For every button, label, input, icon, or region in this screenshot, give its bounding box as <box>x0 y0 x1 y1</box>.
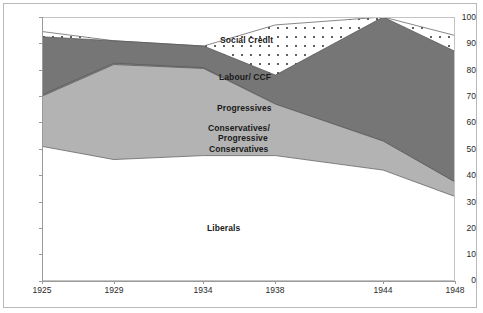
series-label-liberals: Liberals <box>207 223 240 234</box>
x-tick-1944: 1944 <box>361 286 405 295</box>
y-tick-20: 20 <box>452 224 476 232</box>
y-tick-100: 100 <box>452 13 476 21</box>
y-tick-60: 60 <box>452 118 476 126</box>
x-axis-line <box>42 281 456 282</box>
chart-frame: 100 90 80 70 60 50 40 30 20 10 0 <box>3 3 477 308</box>
x-tickmark-1929 <box>114 281 115 284</box>
x-tick-1938: 1938 <box>253 286 297 295</box>
x-tick-1948: 1948 <box>433 286 477 295</box>
y-tick-90: 90 <box>452 39 476 47</box>
x-tickmark-1948 <box>455 281 456 284</box>
series-label-social-credit: Social Credit <box>220 35 273 46</box>
series-label-conservatives-line1: Conservatives/ <box>208 123 270 134</box>
series-label-progressives: Progressives <box>217 103 272 114</box>
x-tickmark-1938 <box>275 281 276 284</box>
y-tick-70: 70 <box>452 92 476 100</box>
y-tick-10: 10 <box>452 250 476 258</box>
x-tick-1929: 1929 <box>92 286 136 295</box>
x-tickmark-1944 <box>383 281 384 284</box>
y-tick-40: 40 <box>452 171 476 179</box>
series-label-conservatives-line2: Progressive <box>218 133 268 144</box>
y-tick-50: 50 <box>452 145 476 153</box>
y-tick-30: 30 <box>452 198 476 206</box>
x-tickmark-1934 <box>203 281 204 284</box>
series-label-conservatives-line3: Conservatives <box>209 144 268 155</box>
x-tick-1925: 1925 <box>20 286 64 295</box>
x-tickmark-1925 <box>42 281 43 284</box>
x-tick-1934: 1934 <box>181 286 225 295</box>
y-tick-80: 80 <box>452 66 476 74</box>
series-label-labour-ccf: Labour/ CCF <box>219 72 271 83</box>
y-axis-line <box>42 17 43 282</box>
